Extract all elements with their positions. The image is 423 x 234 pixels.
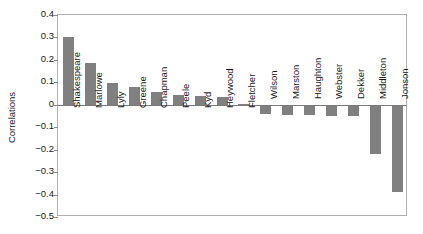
plot-area xyxy=(57,14,407,216)
category-label: Wilson xyxy=(269,70,279,99)
bar xyxy=(326,105,337,116)
category-label: Kyd xyxy=(203,91,213,107)
y-axis-tick-mark xyxy=(54,15,58,16)
y-axis-tick-labels: 0.40.30.20.10−0.1−0.2−0.3−0.4−0.5 xyxy=(18,0,54,234)
bar xyxy=(260,105,271,114)
bars-layer xyxy=(58,15,406,215)
category-label: Fletcher xyxy=(247,73,257,107)
y-axis-tick-label: 0.4 xyxy=(41,9,54,19)
y-axis-tick-label: 0.3 xyxy=(41,32,54,42)
y-axis-tick-label: −0.2 xyxy=(35,144,54,154)
y-axis-tick-mark xyxy=(54,60,58,61)
y-axis-tick-label: −0.5 xyxy=(35,211,54,221)
y-axis-tick-label: 0.1 xyxy=(41,77,54,87)
category-label: Shakespeare xyxy=(72,52,82,108)
category-label: Heywood xyxy=(225,68,235,108)
y-axis-tick-mark xyxy=(54,172,58,173)
category-label: Dekker xyxy=(356,69,366,99)
y-axis-tick-mark xyxy=(54,127,58,128)
category-label: Lyly xyxy=(116,91,126,108)
y-axis-title-text: Correlations xyxy=(7,91,18,142)
bar xyxy=(282,105,293,115)
y-axis-title: Correlations xyxy=(5,0,19,234)
y-axis-tick-mark xyxy=(54,37,58,38)
category-label: Marlowe xyxy=(94,72,104,108)
y-axis-tick-label: 0.2 xyxy=(41,54,54,64)
bar xyxy=(304,105,315,115)
y-axis-tick-mark xyxy=(54,82,58,83)
bar xyxy=(370,105,381,154)
bar xyxy=(392,105,403,193)
category-label: Chapman xyxy=(159,67,169,108)
category-label: Greene xyxy=(138,76,148,108)
category-label: Webster xyxy=(334,64,344,99)
y-axis-tick-label: −0.1 xyxy=(35,121,54,131)
y-axis-tick-mark xyxy=(54,195,58,196)
y-axis-tick-mark xyxy=(54,217,58,218)
category-label: Haughton xyxy=(313,58,323,99)
category-label: Peele xyxy=(181,83,191,107)
y-axis-tick-label: −0.4 xyxy=(35,189,54,199)
category-label: Middleton xyxy=(378,58,388,99)
category-label: Marston xyxy=(291,64,301,98)
category-label: Jonson xyxy=(400,68,410,99)
bar xyxy=(348,105,359,116)
y-axis-tick-mark xyxy=(54,150,58,151)
y-axis-tick-label: 0 xyxy=(49,99,54,109)
correlations-bar-chart: Correlations 0.40.30.20.10−0.1−0.2−0.3−0… xyxy=(0,0,423,234)
y-axis-tick-label: −0.3 xyxy=(35,166,54,176)
